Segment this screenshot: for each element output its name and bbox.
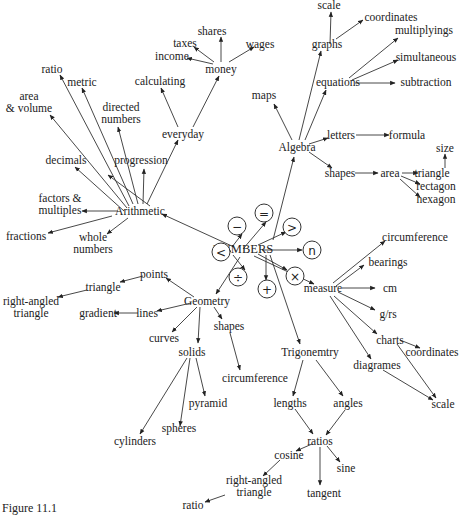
operator-div: ÷ xyxy=(229,268,248,287)
edge-arrow xyxy=(338,292,375,310)
operator-minus: − xyxy=(228,217,247,236)
edge-arrow xyxy=(299,51,321,140)
node-graphs: graphs xyxy=(312,38,343,50)
node-simultaneous: simultaneous xyxy=(396,51,457,63)
node-formula: formula xyxy=(389,129,425,141)
node-gradient: gradient xyxy=(79,307,117,319)
node-tangent: tangent xyxy=(307,487,341,499)
edge-arrow xyxy=(198,307,200,343)
node-taxes: taxes xyxy=(173,37,197,49)
edge-arrow xyxy=(214,307,222,319)
edge-arrow xyxy=(194,47,214,62)
edge-arrow xyxy=(143,169,144,204)
node-shapes-alg: shapes xyxy=(325,167,356,179)
node-ratio-t: ratio xyxy=(182,499,203,511)
node-right-angled-t: right-angledtriangle xyxy=(226,474,282,498)
node-decimals: decimals xyxy=(46,154,87,166)
edge-arrow xyxy=(193,76,219,127)
node-cosine: cosine xyxy=(274,449,303,461)
edge-arrow xyxy=(336,20,363,39)
edge-arrow xyxy=(326,410,345,435)
node-triangle-alg: triangle xyxy=(414,167,449,179)
edge-arrow xyxy=(172,307,197,332)
edge-arrow xyxy=(316,360,343,396)
node-factors: factors &multiples xyxy=(38,192,81,216)
operator-plus: + xyxy=(258,280,277,299)
node-cm: cm xyxy=(383,282,397,294)
edge-arrow xyxy=(334,296,377,334)
node-scale-top: scale xyxy=(318,0,341,11)
edge-arrow xyxy=(383,370,433,400)
node-geometry: Geometry xyxy=(184,295,230,307)
node-multiplyings: multiplyings xyxy=(395,24,453,36)
node-lines: lines xyxy=(136,307,158,319)
node-spheres: spheres xyxy=(162,422,197,434)
node-scale-m: scale xyxy=(432,398,455,410)
edge-arrow xyxy=(274,104,292,140)
node-angles: angles xyxy=(333,397,362,409)
node-solids: solids xyxy=(179,346,206,358)
node-wages: wages xyxy=(246,38,275,50)
node-charts: charts xyxy=(376,334,403,346)
operator-eq: = xyxy=(255,204,274,223)
node-rectagon: rectagon xyxy=(416,180,456,192)
node-pyramid: pyramid xyxy=(189,397,227,409)
node-money: money xyxy=(205,63,236,75)
node-triangle-g: triangle xyxy=(85,281,120,293)
node-algebra: Algebra xyxy=(278,141,315,153)
node-ratios: ratios xyxy=(307,435,333,447)
edge-arrow xyxy=(309,152,332,168)
edge-arrow xyxy=(161,88,178,127)
operator-lt: < xyxy=(212,243,231,262)
edge-arrow xyxy=(60,75,129,206)
node-bearings: bearings xyxy=(369,256,408,268)
node-shapes-g: shapes xyxy=(214,320,245,332)
edge-arrow xyxy=(147,140,178,204)
node-measure: measure xyxy=(304,282,342,294)
edge-arrow xyxy=(58,290,87,297)
node-lengths: lengths xyxy=(273,397,306,409)
node-maps: maps xyxy=(252,89,276,101)
node-right-angled-g: right-angledtriangle xyxy=(3,295,59,319)
operator-times: × xyxy=(286,267,305,286)
operator-gt: > xyxy=(283,218,302,237)
node-shares: shares xyxy=(198,25,227,37)
figure-caption: Figure 11.1 xyxy=(2,501,57,516)
node-whole-numbers: wholenumbers xyxy=(73,231,113,255)
edge-arrow xyxy=(305,90,326,140)
node-area-alg: area xyxy=(380,167,399,179)
edge-arrow xyxy=(293,360,303,396)
node-metric: metric xyxy=(67,76,96,88)
node-directed-numbers: directednumbers xyxy=(101,101,141,125)
edge-arrow xyxy=(349,38,398,78)
node-subtraction: subtraction xyxy=(400,76,451,88)
node-arithmetic: Arithmetic xyxy=(115,205,165,217)
node-circumference-m: circumference xyxy=(382,231,448,243)
node-hexagon: hexagon xyxy=(417,193,456,205)
node-fractions: fractions xyxy=(6,230,46,242)
edge-arrow xyxy=(295,409,313,434)
node-coordinates-m: coordinates xyxy=(405,346,458,358)
node-progression: progression xyxy=(114,154,168,166)
node-calculating: calculating xyxy=(135,75,185,87)
node-curves: curves xyxy=(149,332,179,344)
node-coordinates-top: coordinates xyxy=(364,11,417,23)
node-area-volume: area& volume xyxy=(6,90,52,114)
node-grs: g/rs xyxy=(379,308,396,320)
node-letters: letters xyxy=(327,129,355,141)
operator-n: n xyxy=(303,241,322,260)
edge-arrow xyxy=(205,495,225,502)
node-equations: equations xyxy=(316,76,360,88)
node-points: points xyxy=(140,268,168,280)
node-diagrames: diagrames xyxy=(353,359,400,371)
node-income: income xyxy=(155,50,189,62)
node-sine: sine xyxy=(337,462,356,474)
node-circumference-g: circumference xyxy=(222,372,288,384)
edge-arrow xyxy=(327,446,340,462)
node-size: size xyxy=(436,142,454,154)
node-trigonemtry: Trigonemtry xyxy=(281,346,339,358)
node-ratio-a: ratio xyxy=(41,63,62,75)
edge-arrow xyxy=(196,358,205,396)
node-cylinders: cylinders xyxy=(114,435,156,447)
